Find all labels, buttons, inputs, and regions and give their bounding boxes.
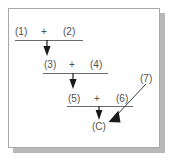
arrow-step2-to-step3 xyxy=(69,73,76,89)
arrow-step3-to-product xyxy=(96,106,103,120)
figure-root: (1) + (2) (3) + (4) (5) + (6) (C) (7) xyxy=(0,0,178,163)
diagram-canvas: (1) + (2) (3) + (4) (5) + (6) (C) (7) xyxy=(0,0,178,163)
arrow-side-input-to-product xyxy=(109,84,147,123)
arrow-step1-to-step2 xyxy=(43,40,50,56)
arrow-layer xyxy=(0,0,178,163)
